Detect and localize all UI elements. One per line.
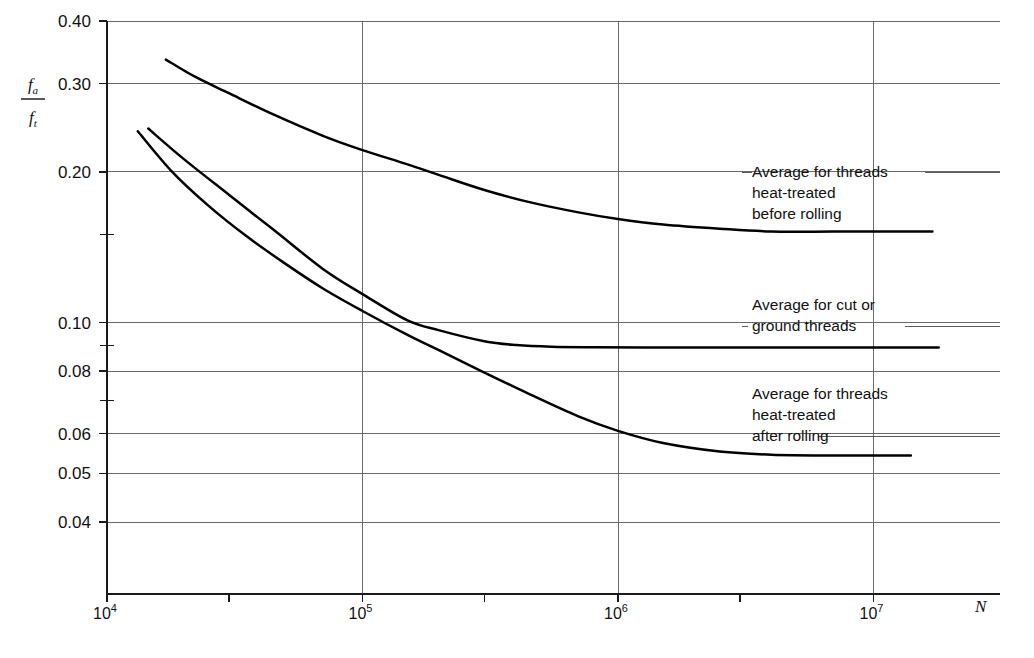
y-tick-label-0.10: 0.10 [58,314,91,333]
curve-series-1 [148,129,938,348]
x-tick-labels: 104105106107 [93,602,883,622]
y-tick-labels: 0.400.300.200.100.080.060.050.04 [58,12,91,532]
y-tick-label-0.05: 0.05 [58,464,91,483]
y-axis-numerator: fa [28,75,39,96]
y-tick-label-0.04: 0.04 [58,513,91,532]
fatigue-strength-chart: 0.400.300.200.100.080.060.050.04 1041051… [0,0,1034,658]
annot-cut-ground-line-0: Average for cut or [752,296,875,313]
y-axis-title: fa ft [21,75,45,129]
y-tick-label-0.30: 0.30 [58,75,91,94]
x-tick-label-1e4: 104 [93,602,117,622]
x-tick-exponent-6: 6 [622,602,628,614]
y-tick-label-0.20: 0.20 [58,163,91,182]
y-axis-denominator-subscript: t [34,117,38,129]
y-tick-label-0.40: 0.40 [58,12,91,31]
y-tick-label-0.08: 0.08 [58,362,91,381]
annot-after-rolling-line-1: heat-treated [752,406,836,423]
x-tick-exponent-5: 5 [366,602,372,614]
horizontal-gridlines [107,21,1000,522]
x-tick-exponent-7: 7 [877,602,883,614]
y-tick-label-0.06: 0.06 [58,425,91,444]
x-tick-label-1e5: 105 [349,602,373,622]
x-tick-exponent-4: 4 [111,602,117,614]
x-tick-label-1e6: 106 [604,602,628,622]
x-tick-label-1e7: 107 [860,602,884,622]
x-axis-title: N [974,597,988,616]
annot-after-rolling-line-2: after rolling [752,427,829,444]
annot-before-rolling-line-0: Average for threads [752,163,888,180]
figure-container: 0.400.300.200.100.080.060.050.04 1041051… [0,0,1034,658]
annot-before-rolling-line-2: before rolling [752,205,842,222]
y-axis-numerator-subscript: a [33,84,39,96]
curve-annotations: Average for threadsheat-treatedbefore ro… [752,163,888,444]
annot-cut-ground-line-1: ground threads [752,317,857,334]
y-axis-denominator: ft [29,108,38,129]
annot-after-rolling-line-0: Average for threads [752,385,888,402]
annot-before-rolling-line-1: heat-treated [752,184,836,201]
